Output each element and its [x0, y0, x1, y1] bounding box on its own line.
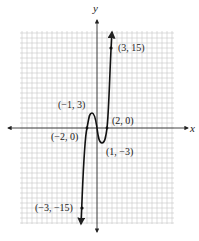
point-neg2-0	[86, 127, 89, 130]
point-2-0	[106, 127, 109, 130]
label-neg1-3: (−1, 3)	[58, 99, 85, 111]
function-graph: x y (3, 15) (−1, 3) (2, 0) (−2, 0) (1, −…	[0, 0, 199, 241]
point-3-15	[109, 46, 112, 49]
point-neg3-neg15	[80, 206, 83, 209]
label-1-neg3: (1, −3)	[106, 146, 133, 158]
label-3-15: (3, 15)	[118, 42, 145, 54]
label-2-0: (2, 0)	[112, 115, 134, 127]
y-axis-label: y	[92, 2, 98, 14]
label-neg2-0: (−2, 0)	[51, 131, 78, 143]
x-axis-label: x	[189, 122, 195, 134]
label-neg3-neg15: (−3, −15)	[35, 202, 73, 214]
